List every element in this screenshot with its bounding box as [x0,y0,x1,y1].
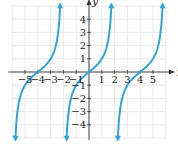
arrow-up-icon [160,2,166,8]
y-tick-label: 2 [80,40,86,51]
x-tick-label: 2 [111,74,117,85]
y-tick-label: 3 [80,27,86,38]
arrow-down-icon [115,136,121,142]
y-tick-label: −2 [71,93,86,104]
arrow-down-icon [12,136,18,142]
x-tick-label: 4 [137,74,143,85]
y-tick-label: −4 [71,119,86,130]
y-tick-label: 4 [80,14,86,25]
tangent-chart: −5−4−3−2−1123454321−1−2−3−4 x y [0,0,178,145]
y-tick-label: −3 [71,106,86,117]
x-axis-arrow-icon [169,70,175,75]
arrow-up-icon [57,2,63,8]
x-tick-label: 3 [124,74,130,85]
y-axis-label: y [91,0,99,8]
arrow-down-icon [64,136,70,142]
arrow-up-icon [108,2,114,8]
y-tick-label: 1 [80,53,86,64]
x-tick-label: 1 [99,74,105,85]
y-tick-label: −1 [71,80,86,91]
x-tick-label: 5 [150,74,156,85]
x-axis-label: x [177,66,178,79]
y-axis-arrow-icon [87,0,92,5]
